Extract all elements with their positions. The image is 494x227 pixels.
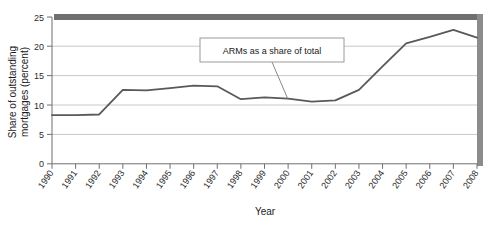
- y-axis-title-line1: Share of outstanding: [7, 46, 18, 138]
- x-tick-label-1996: 1996: [178, 168, 198, 190]
- x-tick-label-2003: 2003: [343, 168, 363, 190]
- x-tick-label-1991: 1991: [60, 168, 80, 190]
- x-tick-label-1995: 1995: [154, 168, 174, 190]
- x-tick-label-2008: 2008: [461, 168, 481, 190]
- x-tick-label-1999: 1999: [248, 168, 268, 190]
- arms-share-line-chart: 25 20 15 10 5 0 Share of outstanding mor…: [0, 0, 494, 227]
- x-axis-title: Year: [255, 206, 276, 217]
- y-tick-label-10: 10: [34, 101, 44, 111]
- x-tick-label-2006: 2006: [414, 168, 434, 190]
- chart-figure: 25 20 15 10 5 0 Share of outstanding mor…: [0, 0, 494, 227]
- plot-right-shadow-bar: [477, 14, 483, 166]
- annotation-label: ARMs as a share of total: [223, 46, 322, 56]
- y-tick-label-0: 0: [39, 159, 44, 169]
- y-tick-label-20: 20: [34, 42, 44, 52]
- x-tick-label-1994: 1994: [130, 168, 150, 190]
- x-tick-label-1993: 1993: [107, 168, 127, 190]
- x-tick-label-2000: 2000: [272, 168, 292, 190]
- plot-top-shadow-bar: [54, 14, 481, 20]
- x-axis-ticks: [52, 164, 477, 169]
- y-axis-title-line2: mortgages (percent): [19, 47, 30, 137]
- x-tick-label-2007: 2007: [437, 168, 457, 190]
- x-tick-label-1990: 1990: [36, 168, 56, 190]
- y-tick-label-15: 15: [34, 71, 44, 81]
- y-tick-label-25: 25: [34, 13, 44, 23]
- x-tick-label-1997: 1997: [201, 168, 221, 190]
- x-tick-label-2004: 2004: [367, 168, 387, 190]
- x-tick-label-1992: 1992: [83, 168, 103, 190]
- x-tick-label-2002: 2002: [319, 168, 339, 190]
- y-tick-label-5: 5: [39, 130, 44, 140]
- y-axis-ticks: [47, 17, 52, 164]
- x-tick-label-1998: 1998: [225, 168, 245, 190]
- x-tick-label-2001: 2001: [296, 168, 316, 190]
- x-tick-label-2005: 2005: [390, 168, 410, 190]
- x-axis-tick-labels: 1990199119921993199419951996199719981999…: [36, 168, 481, 190]
